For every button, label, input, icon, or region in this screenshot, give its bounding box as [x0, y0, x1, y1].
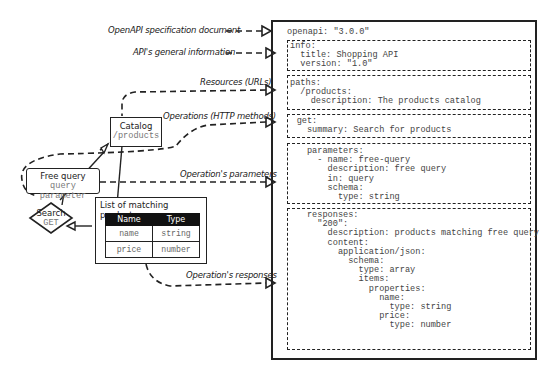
column-header-name: Name — [106, 214, 153, 226]
annotation-general-info: API's general information — [133, 47, 235, 57]
get-code: get: summary: Search for products — [276, 117, 451, 135]
info-section: info: title: Shopping API version: "1.0" — [287, 40, 531, 71]
free-query-box: Free query query parameter — [26, 168, 100, 194]
annotation-operations: Operations (HTTP methods) — [163, 111, 276, 121]
catalog-resource-box: Catalog /products — [110, 117, 162, 147]
cell-type: string — [153, 226, 200, 242]
column-header-type: Type — [153, 214, 200, 226]
responses-code: responses: "200": description: products … — [276, 211, 539, 331]
responses-section: responses: "200": description: products … — [287, 208, 531, 350]
cell-type: number — [153, 242, 200, 258]
search-title: Search — [36, 208, 66, 218]
catalog-title: Catalog — [111, 121, 161, 131]
free-query-title: Free query — [27, 171, 99, 181]
paths-code: paths: /products: description: The produ… — [290, 79, 481, 107]
info-code: info: title: Shopping API version: "1.0" — [290, 42, 398, 70]
table-row: price number — [106, 242, 200, 258]
annotation-parameters: Operation's parameters — [180, 169, 277, 179]
search-method: GET — [36, 218, 66, 228]
table-row: name string — [106, 226, 200, 242]
arrow-head-icon — [262, 26, 271, 36]
table-header-row: Name Type — [106, 214, 200, 226]
cell-name: name — [106, 226, 153, 242]
openapi-document: openapi: "3.0.0" info: title: Shopping A… — [271, 20, 537, 360]
parameters-code: parameters: - name: free-query descripti… — [276, 147, 446, 202]
catalog-path: /products — [111, 131, 161, 141]
annotation-resources: Resources (URLs) — [200, 77, 271, 87]
get-operation-section: get: summary: Search for products — [287, 114, 531, 138]
product-properties-table: Name Type name string price number — [105, 213, 200, 258]
parameters-section: parameters: - name: free-query descripti… — [287, 143, 531, 204]
paths-section: paths: /products: description: The produ… — [287, 75, 531, 110]
annotation-openapi-document: OpenAPI specification document — [108, 25, 240, 35]
cell-name: price — [106, 242, 153, 258]
free-query-subtitle: query parameter — [27, 181, 99, 201]
annotation-responses: Operation's responses — [186, 270, 277, 280]
openapi-version-line: openapi: "3.0.0" — [287, 28, 370, 37]
